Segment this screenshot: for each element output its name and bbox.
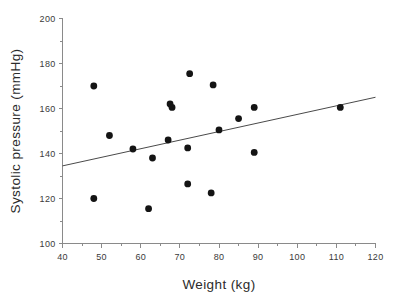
data-point [337, 104, 344, 111]
data-point [235, 115, 242, 122]
x-tick-label: 40 [57, 252, 68, 262]
data-point [165, 137, 172, 144]
x-tick-label: 50 [96, 252, 107, 262]
data-point [106, 132, 113, 139]
plot-canvas: 100120140160180200 405060708090100110120… [0, 0, 395, 302]
data-point [251, 104, 258, 111]
data-point [90, 195, 97, 202]
y-tick-label: 160 [40, 104, 56, 114]
data-point [216, 126, 223, 133]
data-point [145, 205, 152, 212]
data-point [90, 83, 97, 90]
data-point [186, 70, 193, 77]
data-point [149, 155, 156, 162]
data-point [251, 149, 258, 156]
data-point [184, 144, 191, 151]
x-tick-label: 90 [253, 252, 264, 262]
x-tick-label: 70 [175, 252, 186, 262]
x-tick-label: 110 [329, 252, 344, 262]
x-tick-label: 80 [214, 252, 225, 262]
y-tick-label: 200 [40, 14, 56, 24]
y-tick-label: 140 [40, 149, 56, 159]
x-tick-label: 100 [289, 252, 305, 262]
y-tick-label: 100 [40, 239, 56, 249]
data-point [130, 146, 137, 153]
x-tick-label: 60 [135, 252, 146, 262]
x-tick-label: 120 [368, 252, 384, 262]
data-point [169, 104, 176, 111]
y-tick-label: 120 [40, 194, 56, 204]
data-point [184, 180, 191, 187]
y-axis-title: Systolic pressure (mmHg) [8, 49, 23, 214]
data-point [208, 189, 215, 196]
scatter-plot-figure: 100120140160180200 405060708090100110120… [0, 0, 395, 302]
data-point [210, 81, 217, 88]
y-tick-label: 180 [40, 59, 56, 69]
x-axis-title: Weight (kg) [182, 277, 255, 292]
